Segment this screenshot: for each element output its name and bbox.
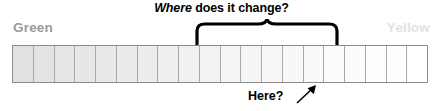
gradient-cell <box>241 46 262 82</box>
curly-brace-icon <box>194 19 340 45</box>
gradient-cell <box>407 46 427 82</box>
gradient-cell <box>34 46 55 82</box>
gradient-cell <box>55 46 76 82</box>
gradient-cell <box>75 46 96 82</box>
gradient-cell <box>117 46 138 82</box>
diagram-title-rest: does it change? <box>192 1 289 15</box>
gradient-cell <box>221 46 242 82</box>
gradient-cell-strip <box>12 45 428 83</box>
left-endpoint-label: Green <box>13 20 53 35</box>
gradient-cell <box>96 46 117 82</box>
gradient-cell <box>200 46 221 82</box>
gradient-cell <box>366 46 387 82</box>
gradient-cell <box>324 46 345 82</box>
diagram-title-emphasis: Where <box>154 1 192 15</box>
right-endpoint-label: Yellow <box>387 20 430 35</box>
gradient-cell <box>283 46 304 82</box>
gradient-cell <box>304 46 325 82</box>
gradient-cell <box>138 46 159 82</box>
gradient-cell <box>345 46 366 82</box>
gradient-cell <box>179 46 200 82</box>
diagram-title: Where does it change? <box>0 1 443 15</box>
gradient-cell <box>13 46 34 82</box>
color-boundary-diagram: Where does it change? Green Yellow Here? <box>0 0 443 111</box>
gradient-cell <box>262 46 283 82</box>
arrow-up-right-icon <box>294 84 320 106</box>
gradient-cell <box>158 46 179 82</box>
here-annotation-label: Here? <box>248 89 283 103</box>
gradient-cell <box>387 46 408 82</box>
